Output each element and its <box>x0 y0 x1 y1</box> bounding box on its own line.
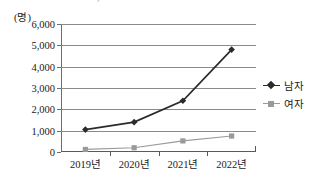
y-axis-tick-label: 1,000 <box>9 125 55 136</box>
data-point-여자-2019년 <box>83 147 88 152</box>
y-axis-tick-label: 3,000 <box>9 83 55 94</box>
data-series-layer <box>61 24 256 152</box>
y-axis-tick-label: 6,000 <box>9 19 55 30</box>
y-axis-tick-label: 2,000 <box>9 104 55 115</box>
cut-off-title-text: — —— —— —— , —— <box>6 0 156 3</box>
diamond-marker-icon <box>263 80 280 91</box>
legend-item-여자[interactable]: 여자 <box>263 96 317 111</box>
data-point-남자-2019년 <box>82 126 89 133</box>
legend-label: 여자 <box>284 96 304 111</box>
legend-label: 남자 <box>284 78 304 93</box>
series-line-남자 <box>85 50 231 130</box>
series-line-여자 <box>85 136 231 149</box>
x-axis-tick-label: 2022년 <box>202 156 262 171</box>
y-axis-tick-label: 0 <box>9 147 55 158</box>
data-point-남자-2020년 <box>131 119 138 126</box>
data-point-여자-2020년 <box>132 145 137 150</box>
y-axis-tick-labels: 01,0002,0003,0004,0005,0006,000 <box>9 24 55 152</box>
chart-legend: 남자여자 <box>263 78 317 114</box>
y-axis-tick-label: 4,000 <box>9 61 55 72</box>
x-axis-tick-labels: 2019년2020년2021년2022년 <box>61 156 256 174</box>
legend-item-남자[interactable]: 남자 <box>263 78 317 93</box>
data-point-여자-2022년 <box>229 133 234 138</box>
y-axis-tick-label: 5,000 <box>9 40 55 51</box>
chart-screenshot: — —— —— —— , —— (명) 01,0002,0003,0004,00… <box>0 0 317 185</box>
y-axis-tick <box>57 152 61 153</box>
square-marker-icon <box>263 98 280 109</box>
data-point-여자-2021년 <box>180 138 185 143</box>
